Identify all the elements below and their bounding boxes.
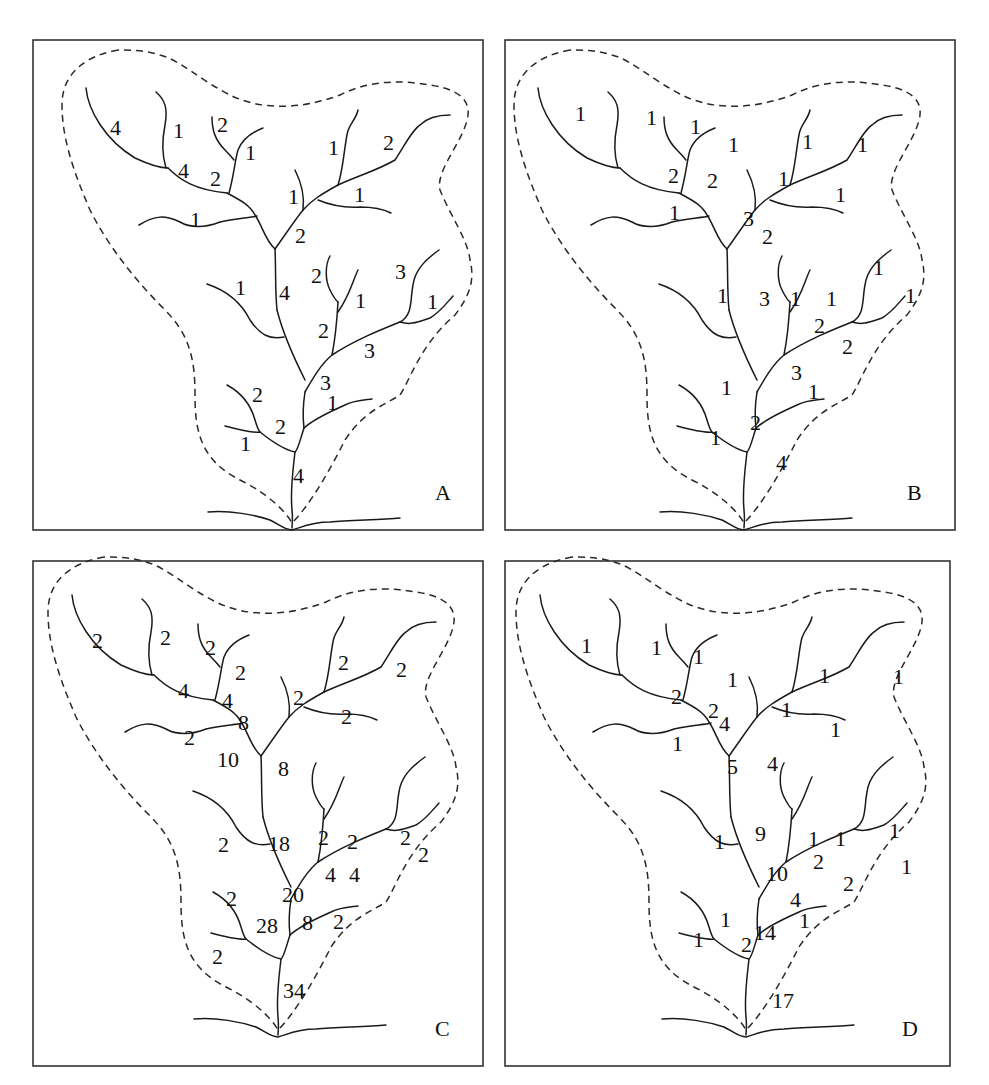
stream-segment <box>227 193 275 249</box>
stream-order-label: 4 <box>767 751 778 776</box>
stream-order-label: 2 <box>813 849 824 874</box>
stream-order-label: 4 <box>349 862 360 887</box>
stream-order-label: 8 <box>238 710 249 735</box>
panel-d-frame <box>505 561 950 1066</box>
panel-a: 41214212111214213123312214A <box>62 50 472 530</box>
stream-order-label: 2 <box>842 334 853 359</box>
stream-order-label: 1 <box>893 664 904 689</box>
stream-segment <box>386 757 425 829</box>
panel-letter-c: C <box>435 1016 450 1041</box>
stream-order-label: 2 <box>235 660 246 685</box>
stream-order-label: 1 <box>873 255 884 280</box>
stream-order-label: 2 <box>293 685 304 710</box>
stream-order-label: 1 <box>288 184 299 209</box>
stream-order-label: 2 <box>338 650 349 675</box>
stream-order-label: 2 <box>707 168 718 193</box>
stream-segment <box>326 256 338 302</box>
stream-order-label: 2 <box>708 698 719 723</box>
stream-order-diagram: 41214212111214213123312214A1111221111132… <box>0 0 989 1085</box>
stream-order-label: 1 <box>808 826 819 851</box>
panel-a-frame <box>33 40 483 530</box>
stream-order-label: 1 <box>728 132 739 157</box>
stream-order-label: 9 <box>755 821 766 846</box>
stream-segment <box>156 92 166 168</box>
stream-order-label: 1 <box>354 182 365 207</box>
stream-order-label: 1 <box>581 633 592 658</box>
stream-segment <box>303 392 305 428</box>
stream-segment <box>261 717 289 756</box>
stream-order-label: 1 <box>693 927 704 952</box>
stream-segment <box>729 310 757 380</box>
basin-boundary <box>516 557 926 1030</box>
stream-order-label: 4 <box>325 862 336 887</box>
stream-order-label: 10 <box>766 861 788 886</box>
stream-order-label: 1 <box>835 182 846 207</box>
stream-order-label: 1 <box>830 717 841 742</box>
stream-segment <box>792 777 812 819</box>
stream-order-label: 3 <box>743 206 754 231</box>
stream-segment <box>261 756 263 817</box>
stream-order-label: 3 <box>395 259 406 284</box>
stream-segment <box>86 88 168 168</box>
stream-segment <box>194 1019 386 1037</box>
stream-order-label: 2 <box>383 130 394 155</box>
stream-segment <box>338 110 358 185</box>
stream-segment <box>666 624 688 667</box>
stream-segment <box>591 216 709 227</box>
stream-order-label: 2 <box>341 704 352 729</box>
basin-boundary <box>48 557 458 1030</box>
stream-order-label: 1 <box>808 379 819 404</box>
stream-order-label: 2 <box>741 932 752 957</box>
stream-segment <box>660 512 852 530</box>
stream-order-label: 1 <box>355 288 366 313</box>
stream-segment <box>208 512 400 530</box>
stream-order-label: 1 <box>173 118 184 143</box>
stream-order-label: 2 <box>226 886 237 911</box>
stream-order-label: 1 <box>710 425 721 450</box>
stream-segment <box>852 250 891 322</box>
stream-order-label: 34 <box>283 978 305 1003</box>
stream-order-label: 2 <box>295 223 306 248</box>
drainage-network <box>62 50 472 530</box>
stream-order-label: 1 <box>799 908 810 933</box>
stream-segment <box>770 200 843 213</box>
stream-segment <box>290 906 358 935</box>
stream-order-label: 3 <box>364 338 375 363</box>
stream-order-label: 1 <box>427 289 438 314</box>
stream-order-label: 8 <box>278 756 289 781</box>
stream-segment <box>608 92 618 168</box>
stream-order-label: 1 <box>790 286 801 311</box>
stream-order-label: 1 <box>693 644 704 669</box>
stream-order-label: 4 <box>178 158 189 183</box>
stream-order-label: 2 <box>814 313 825 338</box>
stream-segment <box>747 170 755 210</box>
stream-segment <box>610 599 620 675</box>
stream-order-label: 2 <box>750 410 761 435</box>
stream-order-label: 2 <box>218 832 229 857</box>
stream-order-label: 4 <box>178 678 189 703</box>
stream-order-label: 1 <box>690 114 701 139</box>
stream-order-label: 1 <box>327 390 338 415</box>
stream-segment <box>679 933 749 959</box>
stream-segment <box>291 829 386 899</box>
stream-order-label: 1 <box>651 635 662 660</box>
drainage-network <box>48 557 458 1037</box>
stream-segment <box>792 617 812 692</box>
stream-order-label: 10 <box>217 747 239 772</box>
stream-order-label: 1 <box>857 132 868 157</box>
stream-order-label: 3 <box>759 286 770 311</box>
stream-order-label: 2 <box>668 163 679 188</box>
stream-order-label: 2 <box>762 224 773 249</box>
stream-order-label: 2 <box>418 842 429 867</box>
stream-order-label: 2 <box>252 382 263 407</box>
panel-c: 2222448222221082182244222022882234C <box>48 557 458 1041</box>
stream-segment <box>749 677 757 717</box>
stream-segment <box>275 249 277 310</box>
stream-order-label: 2 <box>671 684 682 709</box>
stream-order-label: 4 <box>279 280 290 305</box>
stream-segment <box>538 88 620 168</box>
stream-order-label: 1 <box>905 283 916 308</box>
stream-order-label: 1 <box>717 283 728 308</box>
stream-order-label: 2 <box>92 628 103 653</box>
stream-order-label: 4 <box>110 115 121 140</box>
